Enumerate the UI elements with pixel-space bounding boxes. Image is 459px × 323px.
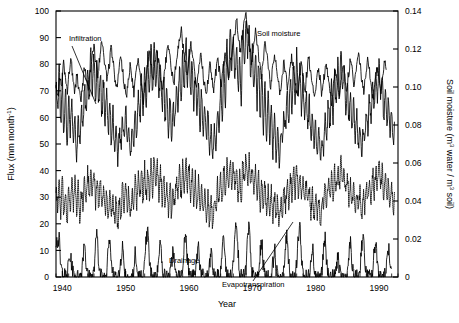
- x-tick-label: 1940: [53, 283, 72, 293]
- y-left-tick-label: 50: [40, 139, 50, 149]
- y-left-tick-label: 90: [40, 33, 50, 43]
- y-left-tick-label: 100: [35, 6, 49, 16]
- x-tick-label: 1950: [116, 283, 135, 293]
- y-left-tick-label: 80: [40, 59, 50, 69]
- y-left-tick-label: 60: [40, 113, 50, 123]
- y-left-tick-label: 30: [40, 192, 50, 202]
- y-left-tick-label: 10: [40, 246, 50, 256]
- figure-container: 194019501960197019801990 010203040506070…: [0, 0, 459, 323]
- y-right-tick-label: 0.12: [405, 44, 422, 54]
- x-axis-label: Year: [218, 299, 236, 309]
- y-right-tick-label: 0.02: [405, 234, 422, 244]
- x-tick-label: 1980: [306, 283, 325, 293]
- y-left-tick-label: 20: [40, 219, 50, 229]
- y-right-tick-label: 0.14: [405, 6, 422, 16]
- evapotranspiration-label: Evapotranspiration: [222, 280, 285, 289]
- soil-moisture-label: Soil moisture: [257, 29, 300, 38]
- y-right-tick-label: 0.08: [405, 120, 422, 130]
- infiltration-label: Infiltration: [69, 34, 102, 43]
- y-left-tick-label: 70: [40, 86, 50, 96]
- x-tick-label: 1960: [180, 283, 199, 293]
- y-right-tick-label: 0.10: [405, 82, 422, 92]
- y-left-tick-label: 40: [40, 166, 50, 176]
- y-right-tick-label: 0.06: [405, 158, 422, 168]
- hydrology-flux-chart: 194019501960197019801990 010203040506070…: [0, 0, 459, 323]
- x-tick-label: 1990: [370, 283, 389, 293]
- y-right-tick-label: 0.04: [405, 196, 422, 206]
- y-right-tick-label: 0: [405, 272, 410, 282]
- drainage-label: Drainage: [169, 256, 199, 265]
- y-axis-left-label: Flux (mm month-1): [6, 107, 16, 180]
- y-left-tick-label: 0: [44, 272, 49, 282]
